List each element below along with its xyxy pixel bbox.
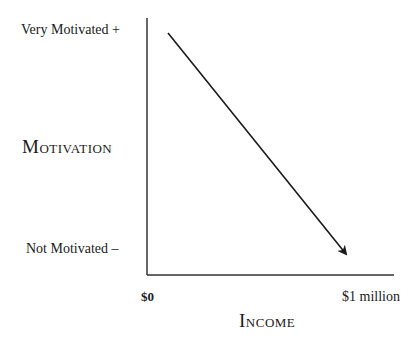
x-tick-right: $1 million — [342, 289, 400, 305]
x-axis-title: Income — [239, 310, 295, 332]
y-tick-bottom: Not Motivated – — [26, 241, 119, 257]
y-axis-title: Motivation — [22, 136, 112, 158]
trend-arrow — [168, 33, 346, 254]
y-tick-top: Very Motivated + — [21, 22, 120, 38]
x-tick-left: $0 — [141, 289, 154, 305]
